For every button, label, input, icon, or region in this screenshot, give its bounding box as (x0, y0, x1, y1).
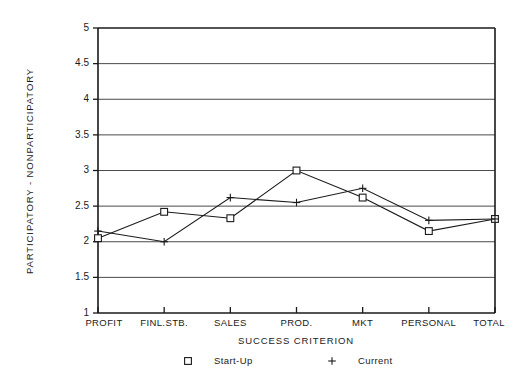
square-marker-icon (95, 235, 102, 242)
square-marker-icon (161, 208, 168, 215)
square-marker-icon (185, 358, 192, 365)
x-tick-label-TOTAL: TOTAL (473, 317, 505, 328)
y-tick-label-4.5: 4.5 (75, 57, 89, 68)
x-tick-label-SALES: SALES (214, 317, 247, 328)
y-tick-label-2: 2 (83, 235, 89, 246)
x-tick-label-PROD.: PROD. (280, 317, 312, 328)
y-tick-label-1: 1 (83, 307, 89, 318)
y-tick-labels-group: 11.522.533.544.55 (75, 22, 89, 318)
legend-item-current: Current (328, 355, 392, 366)
x-tick-label-MKT: MKT (352, 317, 373, 328)
y-tick-label-3.5: 3.5 (75, 129, 89, 140)
y-axis-title: PARTICIPATORY - NONPARTICIPATORY (24, 68, 35, 274)
square-marker-icon (227, 215, 234, 222)
y-tick-label-1.5: 1.5 (75, 271, 89, 282)
y-tick-label-5: 5 (83, 22, 89, 33)
line-chart: 11.522.533.544.55 PROFITFINL.STB.SALESPR… (0, 0, 518, 383)
square-marker-icon (425, 228, 432, 235)
x-tick-marks-group (98, 307, 495, 313)
x-tick-label-FINL.STB.: FINL.STB. (140, 317, 188, 328)
chart-legend: Start-UpCurrent (185, 355, 393, 366)
legend-item-start-up: Start-Up (185, 355, 253, 366)
y-tick-label-2.5: 2.5 (75, 200, 89, 211)
chart-container: 11.522.533.544.55 PROFITFINL.STB.SALESPR… (0, 0, 518, 383)
y-tick-label-4: 4 (83, 93, 89, 104)
square-marker-icon (359, 194, 366, 201)
x-tick-labels-group: PROFITFINL.STB.SALESPROD.MKTPERSONALTOTA… (85, 317, 504, 328)
x-tick-label-PROFIT: PROFIT (85, 317, 122, 328)
legend-label: Current (358, 355, 392, 366)
legend-label: Start-Up (214, 355, 253, 366)
x-tick-label-PERSONAL: PERSONAL (401, 317, 456, 328)
x-axis-title: SUCCESS CRITERION (238, 335, 354, 346)
y-tick-label-3: 3 (83, 164, 89, 175)
square-marker-icon (293, 167, 300, 174)
